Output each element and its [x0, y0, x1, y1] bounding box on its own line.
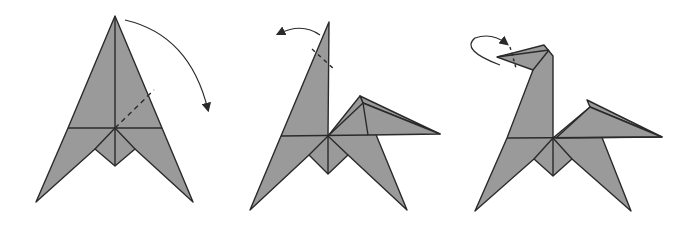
horizontal-edge	[507, 137, 662, 138]
origami-diagram	[0, 0, 692, 236]
step-2-figure	[250, 22, 440, 210]
reverse-fold-arrow-icon	[471, 36, 507, 65]
fold-arrow-icon	[278, 28, 320, 35]
step-2-tail-front	[363, 103, 440, 135]
horizontal-edge	[281, 135, 368, 136]
step-3-figure	[471, 36, 662, 211]
step-1-figure	[36, 16, 208, 202]
